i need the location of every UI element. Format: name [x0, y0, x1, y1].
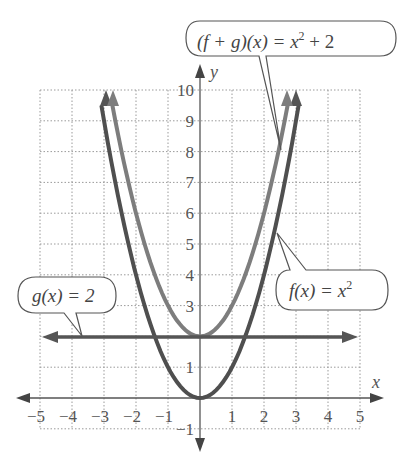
x-tick-label: 2: [260, 407, 269, 426]
g-right-arrow-icon: [342, 331, 358, 343]
y-tick-label: 1: [186, 358, 195, 377]
g-left-arrow-icon: [42, 331, 58, 343]
label-f-plus-g: (f + g)(x) = x2 + 2: [197, 29, 334, 53]
x-tick-label: −4: [59, 407, 78, 426]
label-g: g(x) = 2: [32, 285, 95, 307]
chart-canvas: x y −5−4−3−2−112345−11345678910 (f + g)(…: [0, 0, 409, 453]
x-tick-label: −3: [91, 407, 109, 426]
y-tick-label: 6: [186, 204, 195, 223]
y-axis-label: y: [208, 62, 218, 82]
x-tick-label: −1: [155, 407, 173, 426]
x-tick-label: 5: [356, 407, 365, 426]
tick-labels: −5−4−3−2−112345−11345678910: [27, 81, 364, 439]
y-tick-label: 8: [186, 143, 195, 162]
callout-f-plus-g: (f + g)(x) = x2 + 2: [186, 21, 396, 150]
x-axis-label: x: [371, 372, 380, 392]
callout-g: g(x) = 2: [18, 277, 116, 336]
y-tick-label: 3: [186, 297, 195, 316]
y-tick-label: 10: [177, 81, 194, 100]
fg-right-arrow-icon: [281, 90, 293, 106]
x-tick-label: 3: [292, 407, 301, 426]
x-axis-right-arrow-icon: [370, 393, 384, 403]
x-tick-label: 1: [228, 407, 237, 426]
y-tick-label: 5: [186, 235, 195, 254]
axes: x y: [16, 62, 384, 452]
y-tick-label: 7: [186, 173, 195, 192]
y-axis-up-arrow-icon: [195, 64, 205, 78]
y-tick-label: 9: [186, 112, 195, 131]
y-axis-down-arrow-icon: [195, 438, 205, 452]
x-tick-label: −5: [27, 407, 45, 426]
x-tick-label: −2: [123, 407, 141, 426]
x-tick-label: 4: [324, 407, 333, 426]
label-f: f(x) = x2: [289, 278, 352, 302]
y-tick-label: 4: [186, 266, 195, 285]
x-axis-left-arrow-icon: [16, 393, 30, 403]
y-tick-label: −1: [176, 420, 194, 439]
callout-f: f(x) = x2: [276, 233, 388, 310]
